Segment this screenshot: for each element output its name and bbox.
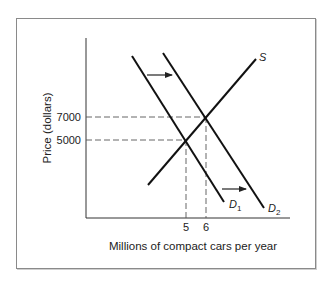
d1-label-sub: 1 bbox=[237, 204, 242, 213]
d1-label-main: D bbox=[229, 198, 237, 210]
d1-label: D1 bbox=[229, 198, 242, 213]
y-tick-7000: 7000 bbox=[57, 111, 81, 123]
x-axis-label: Millions of compact cars per year bbox=[109, 240, 277, 252]
x-tick-5: 5 bbox=[183, 221, 189, 233]
guide-lines bbox=[86, 117, 206, 218]
supply-demand-diagram: 7000 5000 5 6 Price (dollars) Millions o… bbox=[0, 0, 333, 285]
demand-curve-d1 bbox=[132, 56, 224, 202]
x-tick-6: 6 bbox=[203, 221, 209, 233]
y-tick-5000: 5000 bbox=[57, 134, 81, 146]
d2-label-sub: 2 bbox=[276, 208, 281, 217]
d2-label: D2 bbox=[268, 202, 281, 217]
d2-label-main: D bbox=[268, 202, 276, 214]
y-axis-label: Price (dollars) bbox=[41, 92, 53, 163]
supply-label: S bbox=[259, 51, 267, 63]
